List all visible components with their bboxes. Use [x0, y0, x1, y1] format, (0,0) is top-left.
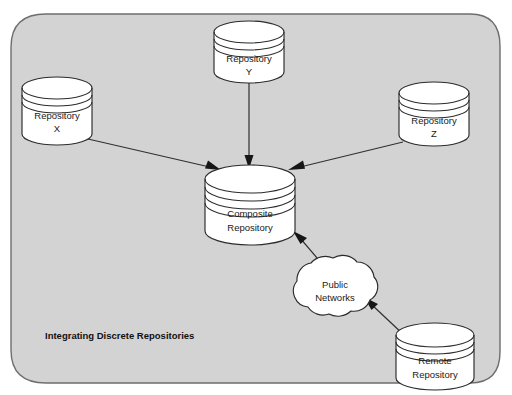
node-repository-z: Repository Z: [399, 82, 469, 146]
repository-y-label-line2: Y: [246, 66, 253, 77]
remote-repository-label-line2: Repository: [412, 369, 458, 380]
diagram-caption: Integrating Discrete Repositories: [45, 330, 194, 341]
repository-z-label-line2: Z: [431, 128, 437, 139]
composite-repository-label-line2: Repository: [227, 222, 273, 233]
repository-x-label-line1: Repository: [34, 110, 80, 121]
public-networks-label-line2: Networks: [315, 292, 355, 303]
public-networks-label-line1: Public: [322, 279, 348, 290]
repository-y-label-line1: Repository: [226, 53, 272, 64]
node-repository-x: Repository X: [22, 77, 92, 145]
node-remote-repository: Remote Repository: [396, 323, 474, 390]
composite-repository-label-line1: Composite: [227, 208, 272, 219]
node-public-networks: Public Networks: [293, 255, 377, 316]
node-composite-repository: Composite Repository: [205, 165, 295, 245]
repository-z-label-line1: Repository: [411, 115, 457, 126]
remote-repository-label-line1: Remote: [418, 355, 451, 366]
node-repository-y: Repository Y: [214, 21, 284, 83]
diagram-canvas: Repository X Repository Y Repository Z: [0, 0, 512, 395]
repository-x-label-line2: X: [54, 123, 61, 134]
integration-diagram: Repository X Repository Y Repository Z: [0, 0, 512, 395]
